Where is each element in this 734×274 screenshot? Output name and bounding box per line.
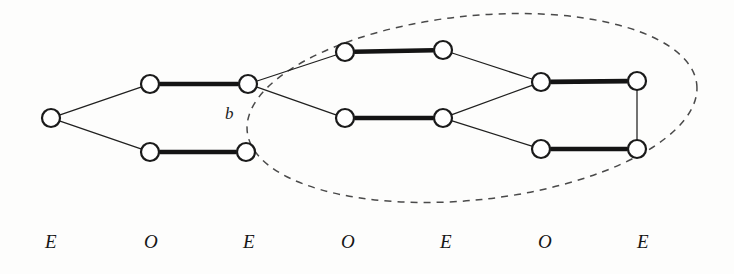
graph-vertex xyxy=(336,43,354,61)
graph-canvas xyxy=(0,0,734,274)
graph-figure: EOEOEOE b xyxy=(0,0,734,274)
blossom-region-layer xyxy=(238,0,707,223)
graph-vertex xyxy=(141,143,159,161)
graph-edge xyxy=(60,87,141,115)
graph-edge xyxy=(60,121,141,149)
non-matching-edges-layer xyxy=(60,53,637,149)
graph-vertex xyxy=(628,140,646,158)
graph-edge xyxy=(452,85,532,114)
graph-edge xyxy=(452,53,532,79)
graph-vertex xyxy=(239,75,257,93)
matching-edges-layer xyxy=(159,50,628,152)
graph-vertex xyxy=(628,72,646,90)
blossom-region-outline xyxy=(238,0,707,223)
graph-vertex xyxy=(434,41,452,59)
graph-edge xyxy=(452,121,532,146)
parity-label-3: E xyxy=(243,232,255,251)
graph-vertex xyxy=(532,140,550,158)
graph-vertex xyxy=(141,75,159,93)
parity-label-6: O xyxy=(538,232,552,251)
vertices-layer xyxy=(42,41,646,161)
parity-label-4: O xyxy=(341,232,355,251)
graph-edge xyxy=(257,87,336,115)
parity-label-7: E xyxy=(637,232,649,251)
graph-vertex xyxy=(532,73,550,91)
graph-vertex xyxy=(336,109,354,127)
matching-edge xyxy=(550,81,628,82)
parity-label-1: E xyxy=(45,232,57,251)
matching-edge xyxy=(354,50,434,52)
graph-vertex xyxy=(42,109,60,127)
graph-edge xyxy=(257,55,336,81)
graph-vertex xyxy=(237,143,255,161)
parity-label-2: O xyxy=(144,232,158,251)
parity-label-5: E xyxy=(440,232,452,251)
vertex-label-b: b xyxy=(225,105,234,122)
graph-vertex xyxy=(434,109,452,127)
